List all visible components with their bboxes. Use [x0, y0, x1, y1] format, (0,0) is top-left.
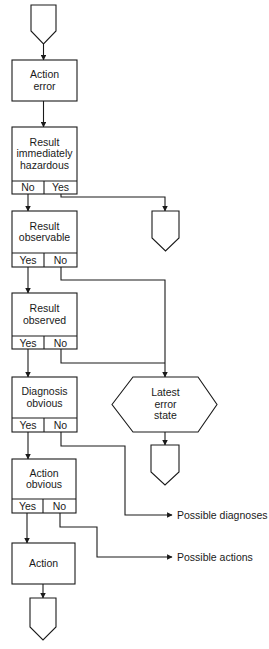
observed-label: Result observed — [12, 293, 77, 336]
hazardous-label: Result immediately hazardous — [12, 127, 77, 181]
end-connector — [30, 598, 56, 640]
label-line: hazardous — [20, 160, 69, 172]
observed-yes-label: Yes — [12, 337, 44, 349]
action-obvious-no-label: No — [43, 500, 76, 512]
hazardous-no-label: No — [12, 181, 44, 193]
observed-no-label: No — [44, 337, 77, 349]
action-obvious-label: Action obvious — [12, 459, 76, 499]
label-line: state — [154, 410, 177, 422]
action-error-label: Action error — [12, 60, 77, 101]
hazardous-yes-label: Yes — [44, 181, 77, 193]
label-line: observed — [23, 315, 66, 327]
label-line: Action — [30, 69, 59, 81]
edge-observed-no — [61, 349, 165, 363]
possible-actions-label: Possible actions — [177, 551, 253, 563]
diagnosis-obvious-label: Diagnosis obvious — [12, 377, 77, 418]
edge-action-obvious-no — [60, 513, 172, 557]
latest-end-connector — [151, 445, 179, 485]
action-obvious-yes-label: Yes — [12, 500, 43, 512]
label-line: Diagnosis — [21, 386, 67, 398]
action-label: Action — [12, 543, 75, 584]
diagnosis-no-label: No — [44, 419, 77, 431]
label-line: obvious — [26, 398, 62, 410]
label-line: Action — [29, 558, 58, 570]
start-connector — [31, 5, 56, 44]
latest-error-state-label: Latest error state — [133, 377, 198, 432]
observable-label: Result observable — [12, 211, 77, 253]
label-line: error — [33, 81, 55, 93]
possible-diagnoses-label: Possible diagnoses — [177, 509, 267, 521]
observable-yes-label: Yes — [12, 254, 44, 266]
label-line: Result — [30, 303, 60, 315]
hazard-end-connector — [152, 211, 179, 251]
edge-hazardous-yes — [61, 194, 165, 211]
label-line: observable — [19, 232, 70, 244]
label-line: obvious — [26, 479, 62, 491]
diagnosis-yes-label: Yes — [12, 419, 44, 431]
observable-no-label: No — [44, 254, 77, 266]
